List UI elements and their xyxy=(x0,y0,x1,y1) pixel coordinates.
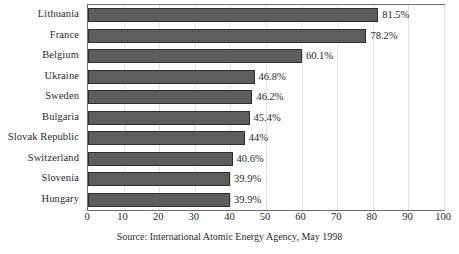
bar-value-label: 39.9% xyxy=(230,174,261,185)
category-label: Ukraine xyxy=(0,66,83,87)
bar-slot: 81.5% xyxy=(88,5,444,26)
category-label: Sweden xyxy=(0,86,83,107)
category-label: Bulgaria xyxy=(0,107,83,128)
bar-value-label: 81.5% xyxy=(378,10,409,21)
bar[interactable] xyxy=(88,90,252,104)
bar-slot: 46.2% xyxy=(88,87,444,108)
bar-value-label: 44% xyxy=(245,133,268,144)
bar[interactable] xyxy=(88,131,245,145)
x-tick-label: 50 xyxy=(260,212,271,223)
category-label: Lithuania xyxy=(0,4,83,25)
category-axis: LithuaniaFranceBelgiumUkraineSwedenBulga… xyxy=(0,4,83,209)
bar[interactable] xyxy=(88,8,378,22)
x-tick-label: 10 xyxy=(117,212,128,223)
x-tick-label: 90 xyxy=(402,212,413,223)
bar-slot: 39.9% xyxy=(88,169,444,190)
bar-slot: 46.8% xyxy=(88,67,444,88)
bar[interactable] xyxy=(88,49,302,63)
category-label: Slovenia xyxy=(0,168,83,189)
bar-value-label: 46.2% xyxy=(252,92,283,103)
bar-value-label: 40.6% xyxy=(233,154,264,165)
x-tick-label: 20 xyxy=(153,212,164,223)
bar-value-label: 60.1% xyxy=(302,51,333,62)
bar-chart-figure: LithuaniaFranceBelgiumUkraineSwedenBulga… xyxy=(0,0,459,254)
category-label: Hungary xyxy=(0,189,83,210)
x-tick-label: 40 xyxy=(224,212,235,223)
bar-slot: 45.4% xyxy=(88,108,444,129)
x-tick-label: 80 xyxy=(367,212,378,223)
bar-slot: 40.6% xyxy=(88,149,444,170)
x-tick-label: 30 xyxy=(189,212,200,223)
bar-slot: 78.2% xyxy=(88,26,444,47)
value-axis: 0102030405060708090100 xyxy=(87,212,445,228)
bar-value-label: 46.8% xyxy=(255,72,286,83)
bar[interactable] xyxy=(88,152,233,166)
bar-slot: 39.9% xyxy=(88,190,444,211)
bar[interactable] xyxy=(88,111,250,125)
bar-value-label: 45.4% xyxy=(250,113,281,124)
gridline xyxy=(444,5,445,210)
x-tick-label: 0 xyxy=(84,212,89,223)
x-tick-label: 60 xyxy=(295,212,306,223)
category-label: Belgium xyxy=(0,45,83,66)
source-note: Source: International Atomic Energy Agen… xyxy=(0,232,459,242)
bar-slot: 44% xyxy=(88,128,444,149)
x-tick-label: 100 xyxy=(435,212,451,223)
category-label: Slovak Republic xyxy=(0,127,83,148)
plot-area: 81.5%78.2%60.1%46.8%46.2%45.4%44%40.6%39… xyxy=(87,4,445,211)
bar-value-label: 39.9% xyxy=(230,195,261,206)
bar-value-label: 78.2% xyxy=(366,31,397,42)
category-label: France xyxy=(0,25,83,46)
bar-slot: 60.1% xyxy=(88,46,444,67)
x-tick-label: 70 xyxy=(331,212,342,223)
category-label: Switzerland xyxy=(0,148,83,169)
bar[interactable] xyxy=(88,193,230,207)
bar[interactable] xyxy=(88,70,255,84)
bars-layer: 81.5%78.2%60.1%46.8%46.2%45.4%44%40.6%39… xyxy=(88,5,444,210)
bar[interactable] xyxy=(88,172,230,186)
bar[interactable] xyxy=(88,29,366,43)
